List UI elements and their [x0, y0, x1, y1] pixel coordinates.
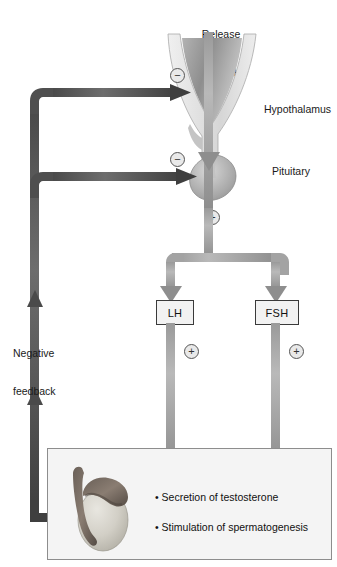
plus-sign-fsh-glyph: + — [293, 346, 299, 357]
effect-text-2: Stimulation of spermatogenesis — [162, 521, 309, 533]
plus-sign-lh: + — [184, 344, 199, 359]
lh-to-testis-shaft — [166, 323, 175, 466]
feedback-arrowhead-pituitary — [176, 167, 198, 186]
negative-feedback-arrowhead-upper — [26, 290, 44, 308]
gnrh-axis-shaft — [204, 32, 213, 208]
hormone-box-fsh-label: FSH — [266, 307, 289, 319]
hormone-box-fsh[interactable]: FSH — [255, 300, 299, 325]
gnrh-to-pituitary-arrowhead — [196, 152, 222, 172]
feedback-arrowhead-hypothalamus — [170, 83, 192, 102]
gonadotropin-split-bar — [172, 253, 277, 262]
negative-feedback-line1: Negative — [13, 347, 73, 360]
effect-item-1: • Secretion of testosterone — [155, 491, 278, 503]
feedback-shaft-pituitary — [53, 172, 183, 181]
effect-text-1: Secretion of testosterone — [162, 491, 279, 503]
hypothalamus-label: Hypothalamus — [264, 103, 331, 116]
effect-item-2: • Stimulation of spermatogenesis — [155, 521, 308, 533]
fsh-to-testis-shaft — [271, 323, 280, 466]
hormone-box-lh-label: LH — [168, 307, 183, 319]
feedback-elbow-pituitary — [30, 172, 54, 198]
pituitary-label: Pituitary — [272, 165, 310, 178]
minus-sign-pituitary-glyph: − — [174, 154, 180, 165]
negative-feedback-trunk — [30, 110, 39, 510]
testis-illustration — [58, 462, 140, 558]
plus-sign-lh-glyph: + — [188, 346, 194, 357]
negative-feedback-line2: feedback — [13, 385, 73, 398]
pituitary-output-shaft — [204, 208, 213, 258]
diagram-canvas: Release of GnRH — [0, 0, 337, 567]
minus-sign-hypothalamus-glyph: − — [174, 70, 180, 81]
effect-bullet-1: • — [155, 491, 159, 503]
minus-sign-pituitary: − — [170, 152, 185, 167]
effect-bullet-2: • — [155, 521, 159, 533]
plus-sign-fsh: + — [289, 344, 304, 359]
hormone-box-lh[interactable]: LH — [156, 300, 194, 325]
feedback-shaft-hypothalamus — [53, 88, 178, 97]
feedback-elbow-hypothalamus — [30, 88, 54, 114]
negative-feedback-label: Negative feedback — [13, 322, 73, 422]
minus-sign-hypothalamus: − — [170, 68, 185, 83]
